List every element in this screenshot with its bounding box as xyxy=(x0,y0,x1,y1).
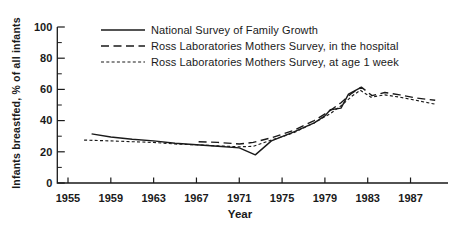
y-tick-label: 80 xyxy=(40,52,52,64)
legend-item: National Survey of Family Growth xyxy=(101,22,399,38)
legend-label: Ross Laboratories Mothers Survey, in the… xyxy=(151,40,398,52)
y-axis-title: Infants breastfed, % of all infants xyxy=(10,17,22,189)
x-tick-label: 1983 xyxy=(355,192,379,204)
legend-line-sample-short-dash xyxy=(101,56,145,68)
y-tick-label: 40 xyxy=(40,114,52,126)
x-tick-label: 1971 xyxy=(227,192,251,204)
series-line-short-dash xyxy=(84,90,435,147)
legend-item: Ross Laboratories Mothers Survey, in the… xyxy=(101,38,399,54)
x-tick-label: 1975 xyxy=(270,192,294,204)
y-tick-label: 60 xyxy=(40,83,52,95)
y-tick-label: 100 xyxy=(34,21,52,33)
legend-label: Ross Laboratories Mothers Survey, at age… xyxy=(151,56,399,68)
legend-line-sample-long-dash xyxy=(101,40,145,52)
legend: National Survey of Family GrowthRoss Lab… xyxy=(101,22,399,70)
x-tick-label: 1963 xyxy=(141,192,165,204)
x-tick-label: 1959 xyxy=(99,192,123,204)
legend-item: Ross Laboratories Mothers Survey, at age… xyxy=(101,54,399,70)
breastfeeding-rate-line-chart: 0204060801001955195919631967197119751979… xyxy=(0,0,455,233)
y-tick-label: 0 xyxy=(46,177,52,189)
x-axis-title: Year xyxy=(190,208,290,220)
series-line-long-dash xyxy=(199,87,436,144)
series-line-solid xyxy=(92,88,361,155)
x-tick-label: 1979 xyxy=(313,192,337,204)
x-tick-label: 1967 xyxy=(184,192,208,204)
legend-label: National Survey of Family Growth xyxy=(151,24,318,36)
legend-line-sample-solid xyxy=(101,24,145,36)
y-tick-label: 20 xyxy=(40,146,52,158)
x-tick-label: 1987 xyxy=(398,192,422,204)
x-tick-label: 1955 xyxy=(56,192,80,204)
